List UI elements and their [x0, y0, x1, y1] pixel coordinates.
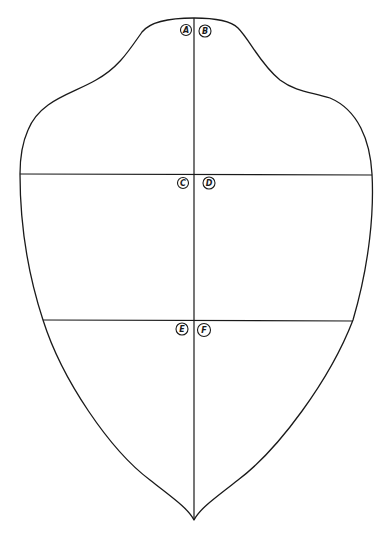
marker-b: B — [199, 25, 211, 37]
marker-f-label: F — [201, 326, 207, 335]
marker-e: E — [176, 323, 188, 335]
marker-f: F — [198, 324, 211, 337]
lower-horizontal-line — [43, 320, 353, 321]
shield-diagram: A B C D E F — [0, 0, 387, 539]
marker-e-label: E — [179, 325, 185, 334]
shield-outline — [20, 18, 372, 520]
upper-horizontal-line — [20, 174, 372, 175]
marker-a: A — [181, 25, 192, 36]
marker-d-label: D — [206, 179, 213, 188]
marker-d: D — [203, 177, 215, 189]
marker-c: C — [178, 178, 189, 189]
marker-b-label: B — [202, 27, 208, 36]
marker-a-label: A — [182, 26, 189, 35]
marker-c-label: C — [180, 179, 186, 188]
